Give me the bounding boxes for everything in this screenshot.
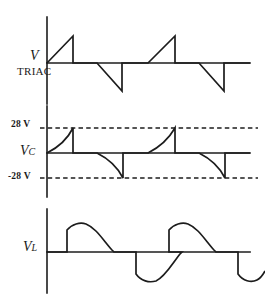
level-label-minus-28: -28 V xyxy=(8,172,31,182)
waveform-figure: V TRIAC VC VL 28 V -28 V xyxy=(0,0,265,306)
level-label-plus-28: 28 V xyxy=(11,120,30,130)
v-triac-subscript: TRIAC xyxy=(17,66,52,77)
waveform-canvas xyxy=(0,0,265,306)
panel-v-c xyxy=(40,106,258,197)
v-c-signal-label: VC xyxy=(20,142,35,158)
v-l-symbol: V xyxy=(23,239,32,254)
v-c-subscript: C xyxy=(29,146,36,157)
panel-v-l xyxy=(47,209,265,293)
v-c-symbol: V xyxy=(20,143,29,158)
v-l-subscript: L xyxy=(32,242,38,253)
v-l-signal-label: VL xyxy=(23,238,37,254)
v-triac-signal-label: V TRIAC xyxy=(17,47,52,77)
panel-v-triac xyxy=(47,17,250,104)
v-triac-symbol: V xyxy=(30,48,39,63)
